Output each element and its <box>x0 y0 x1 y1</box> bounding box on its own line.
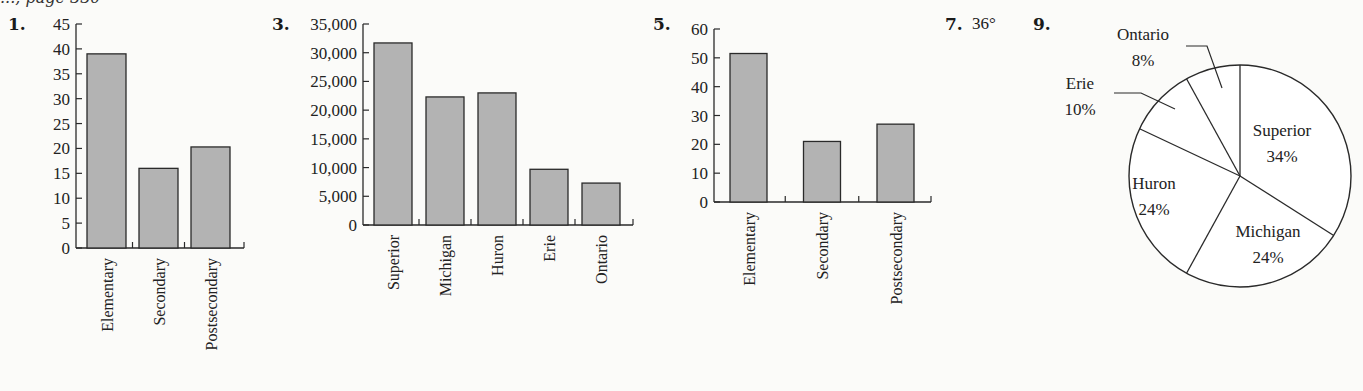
x-category-label: Superior <box>385 234 403 290</box>
pie-label-huron: Huron <box>1132 174 1176 193</box>
y-tick-label: 25,000 <box>310 72 357 91</box>
pie-percent-superior: 34% <box>1266 147 1297 166</box>
pie-label-superior: Superior <box>1253 121 1312 140</box>
y-tick-label: 15,000 <box>310 130 357 149</box>
y-tick-label: 20 <box>53 139 70 158</box>
pie-percent-michigan: 24% <box>1252 248 1283 267</box>
y-tick-label: 35 <box>53 65 70 84</box>
x-category-label: Huron <box>489 235 506 276</box>
x-category-label: Ontario <box>593 235 610 284</box>
y-tick-label: 45 <box>53 15 70 34</box>
y-tick-label: 35,000 <box>310 15 357 34</box>
x-category-label: Elementary <box>99 258 117 332</box>
y-tick-label: 0 <box>349 216 358 235</box>
bar-secondary <box>139 168 178 248</box>
pie-label-erie: Erie <box>1066 74 1094 93</box>
y-tick-label: 5,000 <box>319 187 357 206</box>
y-tick-label: 5 <box>62 214 71 233</box>
y-tick-label: 10,000 <box>310 159 357 178</box>
y-tick-label: 20,000 <box>310 101 357 120</box>
y-tick-label: 30 <box>691 107 708 126</box>
y-tick-label: 10 <box>53 189 70 208</box>
x-category-label: Secondary <box>151 258 169 326</box>
y-tick-label: 50 <box>691 49 708 68</box>
bar-postsecondary <box>877 124 914 202</box>
y-tick-label: 30 <box>53 90 70 109</box>
y-tick-label: 30,000 <box>310 44 357 63</box>
pie-percent-huron: 24% <box>1138 200 1169 219</box>
bar-ontario <box>582 183 620 225</box>
y-tick-label: 60 <box>691 20 708 39</box>
bar-elementary <box>730 54 767 202</box>
y-tick-label: 40 <box>691 78 708 97</box>
bar-erie <box>530 169 568 225</box>
pie-label-michigan: Michigan <box>1235 222 1301 241</box>
pie-chart-group: Superior34%Michigan24%Huron24%Erie10%Ont… <box>1064 25 1351 287</box>
y-tick-label: 40 <box>53 40 70 59</box>
bar-elementary <box>87 54 126 248</box>
pie-label-ontario: Ontario <box>1117 25 1169 44</box>
y-tick-label: 25 <box>53 115 70 134</box>
bar-michigan <box>426 97 464 225</box>
y-tick-label: 10 <box>691 164 708 183</box>
bar-chart-problem-1: 051015202530354045ElementarySecondaryPos… <box>53 15 244 350</box>
x-category-label: Postsecondary <box>888 212 906 304</box>
bar-secondary <box>804 141 841 202</box>
x-category-label: Michigan <box>437 235 455 296</box>
bar-charts-group: 051015202530354045ElementarySecondaryPos… <box>53 15 931 350</box>
bar-chart-problem-5: 0102030405060ElementarySecondaryPostseco… <box>691 20 931 304</box>
y-tick-label: 15 <box>53 164 70 183</box>
bar-postsecondary <box>191 147 230 248</box>
y-tick-label: 20 <box>691 135 708 154</box>
x-category-label: Secondary <box>814 212 832 280</box>
bar-huron <box>478 93 516 225</box>
y-tick-label: 0 <box>62 239 71 258</box>
x-category-label: Elementary <box>741 212 759 286</box>
bar-superior <box>374 43 412 225</box>
x-category-label: Erie <box>541 235 558 262</box>
x-category-label: Postsecondary <box>203 258 221 350</box>
charts-canvas: 051015202530354045ElementarySecondaryPos… <box>0 0 1363 391</box>
pie-percent-erie: 10% <box>1064 100 1095 119</box>
bar-chart-problem-3: 05,00010,00015,00020,00025,00030,00035,0… <box>310 15 633 296</box>
pie-percent-ontario: 8% <box>1132 51 1155 70</box>
y-tick-label: 0 <box>700 193 709 212</box>
